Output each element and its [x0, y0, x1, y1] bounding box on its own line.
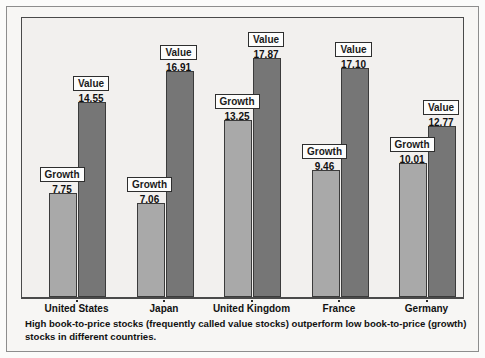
- bar-plot-area: [22, 18, 463, 297]
- figure-caption: High book-to-price stocks (frequently ca…: [25, 318, 467, 343]
- x-axis-tick: [76, 300, 78, 302]
- x-axis-label-germany: Germany: [367, 303, 485, 314]
- bar-growth-germany: [399, 163, 427, 297]
- bar-value-japan: [166, 71, 194, 297]
- bar-value-united-kingdom: [253, 58, 281, 297]
- bar-value-united-states: [78, 102, 106, 297]
- chart-plot-frame: [21, 17, 464, 298]
- figure: United StatesJapanUnited KingdomFranceGe…: [0, 0, 485, 358]
- x-axis-tick: [251, 300, 253, 302]
- x-axis-tick: [338, 300, 340, 302]
- x-axis-tick: [426, 300, 428, 302]
- x-axis-tick: [163, 300, 165, 302]
- bar-growth-united-states: [49, 193, 77, 297]
- bar-growth-france: [312, 170, 340, 297]
- bar-value-france: [341, 68, 369, 297]
- bar-growth-united-kingdom: [224, 120, 252, 297]
- bar-value-germany: [428, 126, 456, 297]
- bar-growth-japan: [137, 203, 165, 297]
- x-axis-line: [21, 297, 464, 299]
